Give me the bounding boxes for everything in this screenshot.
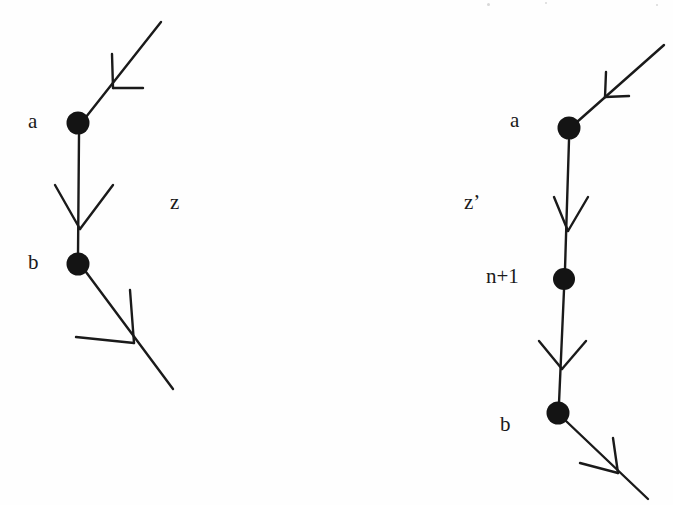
label-vertex-a-left: a	[28, 111, 37, 132]
arrowhead-barb-up-incoming-left	[112, 54, 113, 88]
label-vertex-b-right: b	[500, 414, 511, 435]
edge-n1-to-b-right	[559, 290, 564, 403]
edge-a-to-n1-right	[565, 140, 569, 269]
arrowhead-barb-left-n1b-right	[539, 341, 562, 369]
label-vertex-a-right: a	[510, 110, 519, 131]
arrowhead-barb-left-outgoing-left	[76, 337, 134, 343]
label-amplitude-z: z	[170, 192, 179, 213]
edge-incoming-a-left	[86, 22, 161, 117]
arrowhead-barb-right-ab-left	[80, 185, 113, 229]
vertex-b-left	[67, 253, 90, 276]
vertex-b-right	[547, 402, 570, 425]
arrowhead-barb-right-an1-right	[568, 197, 588, 231]
vertex-a-left	[67, 112, 90, 135]
edge-a-to-b-left	[78, 135, 79, 255]
right-diagram-group	[539, 45, 664, 499]
arrowhead-barb-left-ab-left	[55, 185, 80, 229]
figure-canvas: a b z a n+1 b z’	[0, 0, 673, 505]
label-amplitude-z-prime: z’	[464, 192, 480, 213]
vertex-n1-right	[553, 268, 575, 290]
edge-outgoing-b-right	[566, 421, 648, 499]
left-diagram-group	[55, 22, 173, 389]
edge-incoming-a-right	[577, 45, 664, 122]
label-vertex-n-plus-1-right: n+1	[486, 266, 519, 287]
arrowhead-barb-right-incoming-right	[605, 96, 629, 97]
scan-speck	[487, 3, 490, 6]
scan-speck	[545, 2, 547, 4]
scan-speck	[656, 4, 658, 6]
vertex-a-right	[558, 117, 581, 140]
diagram-svg	[0, 0, 673, 505]
label-vertex-b-left: b	[28, 252, 39, 273]
arrowhead-barb-right-n1b-right	[562, 341, 586, 369]
arrowhead-barb-up-incoming-right	[605, 72, 606, 97]
